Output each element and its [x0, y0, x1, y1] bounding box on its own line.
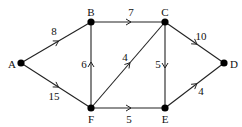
edge-e-d	[165, 63, 224, 108]
edge-weight-b-c: 7	[128, 7, 134, 18]
edge-f-e	[91, 105, 165, 111]
edge-f-b	[88, 22, 94, 108]
node-label-d: D	[230, 59, 238, 70]
edge-f-c	[91, 22, 165, 108]
edge-line	[165, 22, 224, 63]
node-e	[161, 104, 168, 111]
edge-c-d	[165, 22, 224, 63]
graph-canvas	[0, 0, 242, 127]
node-label-f: F	[88, 114, 94, 125]
edge-b-c	[91, 19, 165, 25]
edge-c-e	[162, 22, 168, 108]
node-b	[87, 18, 94, 25]
edge-weight-f-c: 4	[122, 52, 128, 63]
node-c	[161, 18, 168, 25]
edge-line	[91, 22, 165, 108]
node-label-e: E	[162, 114, 169, 125]
node-label-b: B	[87, 7, 94, 18]
edge-weight-c-e: 5	[155, 59, 161, 70]
node-d	[220, 59, 227, 66]
node-label-c: C	[161, 7, 168, 18]
node-label-a: A	[8, 59, 16, 70]
node-f	[87, 104, 94, 111]
edge-weight-a-f: 15	[49, 91, 60, 102]
edge-line	[165, 63, 224, 108]
node-a	[17, 59, 24, 66]
edge-weight-a-b: 8	[51, 26, 57, 37]
edge-weight-f-e: 5	[126, 114, 132, 125]
edge-weight-e-d: 4	[198, 86, 204, 97]
edge-weight-f-b: 6	[81, 59, 87, 70]
edge-weight-c-d: 10	[196, 31, 207, 42]
